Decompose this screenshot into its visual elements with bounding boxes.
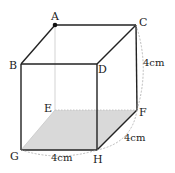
vertex-label-c: C (139, 16, 147, 29)
vertex-label-b: B (9, 59, 17, 72)
dimension-label-gh: 4cm (51, 152, 73, 163)
dimension-label-cf: 4cm (143, 57, 165, 68)
vertex-label-e: E (44, 102, 52, 115)
vertex-label-f: F (139, 106, 147, 119)
point-a-dot (53, 23, 58, 28)
edge-cf (136, 25, 137, 110)
edge-cd (97, 25, 136, 64)
vertex-label-d: D (98, 63, 107, 76)
cube-diagram: A C B D E F G H 4cm 4cm 4cm (0, 0, 175, 173)
dimension-label-fh: 4cm (124, 132, 146, 143)
edge-ab (21, 25, 55, 64)
vertex-label-a: A (50, 10, 60, 23)
vertex-label-g: G (10, 150, 19, 163)
vertex-label-h: H (93, 153, 103, 166)
